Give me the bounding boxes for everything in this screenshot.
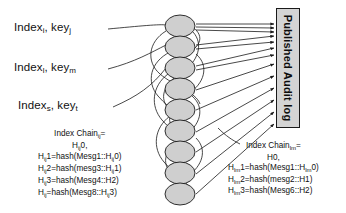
- index-chain-left-line-2: Hij2=hash(mesg3::Hij1): [38, 164, 121, 176]
- chain-node: [165, 36, 195, 58]
- chain-node: [165, 141, 195, 163]
- index-chain-right-heading: Index Chainlm=: [228, 141, 319, 153]
- index-chain-left-seed: Hij0,: [38, 141, 121, 153]
- index-chain-left-heading: Index Chainij=: [38, 129, 121, 141]
- chain-node: [165, 99, 195, 121]
- chain-node: [165, 15, 195, 37]
- chain-node-ellipses: [165, 15, 195, 205]
- chain-node: [165, 78, 195, 100]
- published-audit-log-box: Published Audit log: [276, 8, 300, 128]
- chain-node: [165, 183, 195, 205]
- index-chain-right-line-2: Hlm2=hash(mesg2::H1): [228, 175, 319, 187]
- index-chain-right-line-1: Hlm1=hash(Mesg1::Hlm0): [228, 163, 319, 175]
- index-chain-left-block: Index Chainij= Hij0, Hij1=hash(Mesg1::Hi…: [38, 129, 121, 199]
- published-audit-log-label: Published Audit log: [282, 15, 294, 122]
- chain-node: [165, 120, 195, 142]
- index-chain-right-line-3: Hlm3=hash(Mesg6::H2): [228, 186, 319, 198]
- index-chain-right-seed: H0,: [228, 153, 319, 163]
- index-chain-left-line-3: Hij3=hash(Mesg4::H2): [38, 176, 121, 188]
- source-label-index-key-1: Indexi, keyj: [14, 22, 71, 35]
- source-label-index-key-3: Indexs, keyt: [18, 100, 78, 113]
- chain-node: [165, 162, 195, 184]
- source-label-index-key-2: Indexl, keym: [14, 62, 76, 75]
- index-chain-right-block: Index Chainlm= H0, Hlm1=hash(Mesg1::Hlm0…: [228, 141, 319, 198]
- index-chain-left-line-1: Hij1=hash(Mesg1::Hij0): [38, 152, 121, 164]
- index-chain-left-line-4: Hij=hash(Mesg8::Hij3): [38, 188, 121, 200]
- chain-node: [165, 57, 195, 79]
